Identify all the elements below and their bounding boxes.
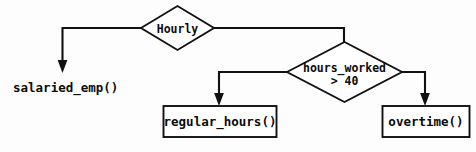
flowchart-canvas: Hourly hours_worked > 40 salaried_emp() … [0, 0, 476, 152]
edge-hours-worked-to-overtime-arrowhead [420, 93, 430, 106]
overtime-label: overtime() [388, 114, 463, 129]
node-overtime[interactable]: overtime() [383, 106, 470, 137]
node-hours-worked-decision[interactable]: hours_worked > 40 [287, 42, 402, 102]
edge-hourly-to-salaried-line [63, 28, 142, 62]
edge-hourly-to-hours-worked-line [214, 28, 344, 43]
edge-hours-worked-to-regular-hours [214, 72, 287, 106]
edge-hours-worked-to-overtime-line [402, 72, 425, 95]
node-regular-hours[interactable]: regular_hours() [164, 106, 277, 137]
edge-hourly-to-salaried-arrowhead [58, 60, 68, 73]
flowchart-svg: Hourly hours_worked > 40 salaried_emp() … [0, 0, 476, 152]
node-salaried-emp[interactable]: salaried_emp() [13, 80, 118, 96]
salaried-emp-label: salaried_emp() [13, 80, 118, 96]
edge-hours-worked-to-overtime [402, 72, 430, 106]
hours-worked-decision-label-line2: > 40 [331, 74, 359, 88]
node-hourly-decision[interactable]: Hourly [141, 6, 214, 50]
edge-hours-worked-to-regular-hours-line [219, 72, 287, 95]
edge-hourly-to-salaried [58, 28, 141, 73]
regular-hours-label: regular_hours() [164, 114, 277, 130]
edge-hours-worked-to-regular-hours-arrowhead [214, 93, 224, 106]
edge-hourly-to-hours-worked [214, 28, 344, 43]
hourly-decision-label: Hourly [157, 22, 199, 36]
